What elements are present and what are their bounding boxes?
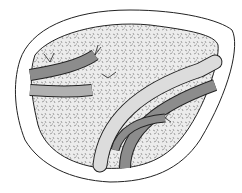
illustration: [0, 0, 242, 193]
organ-section-drawing: [0, 0, 242, 193]
